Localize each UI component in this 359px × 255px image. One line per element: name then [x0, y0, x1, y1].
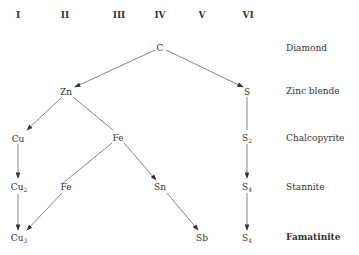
- row-label-stannite: Stannite: [286, 182, 325, 192]
- column-header-iv: IV: [154, 10, 165, 20]
- column-header-vi: VI: [242, 10, 253, 20]
- node-fe-stannite: Fe: [60, 182, 71, 192]
- derivative-structure-diagram: I II III IV V VI Diamond Zinc blende Cha…: [0, 0, 359, 255]
- arrow-sn-sb: [167, 193, 198, 230]
- row-label-chalcopyrite: Chalcopyrite: [286, 133, 344, 143]
- node-sn: Sn: [154, 182, 166, 192]
- node-zn: Zn: [60, 87, 72, 97]
- node-s: S: [244, 87, 250, 97]
- node-cu3: Cu3: [11, 233, 28, 246]
- arrow-zn-cu: [27, 97, 62, 130]
- row-label-famatinite: Famatinite: [286, 232, 341, 242]
- arrow-fe-sn: [124, 143, 156, 180]
- row-label-zinc-blende: Zinc blende: [286, 86, 340, 96]
- node-cu: Cu: [12, 134, 25, 144]
- node-cu2: Cu2: [11, 182, 28, 195]
- node-s4-famatinite: S4: [242, 233, 252, 246]
- node-s2: S2: [242, 133, 252, 146]
- column-header-iii: III: [113, 10, 126, 20]
- node-sb: Sb: [196, 233, 208, 243]
- column-header-i: I: [16, 10, 20, 20]
- arrow-fe-cu3: [27, 193, 62, 230]
- line-zn-fe: [73, 97, 113, 130]
- node-s4-stannite: S4: [242, 182, 252, 195]
- node-c: C: [157, 43, 164, 53]
- line-fe-fe: [63, 143, 112, 183]
- arrow-c-s: [166, 50, 243, 87]
- arrows-layer: [0, 0, 359, 255]
- column-header-v: V: [199, 10, 206, 20]
- arrow-c-zn: [75, 50, 155, 87]
- node-fe-chalcopyrite: Fe: [112, 133, 123, 143]
- column-header-ii: II: [61, 10, 69, 20]
- row-label-diamond: Diamond: [286, 43, 327, 53]
